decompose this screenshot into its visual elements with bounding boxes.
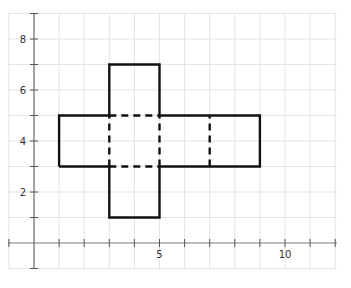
svg-text:8: 8	[20, 34, 26, 45]
svg-text:2: 2	[20, 187, 26, 198]
axis-labels: 5102468	[20, 34, 292, 260]
svg-text:10: 10	[279, 249, 292, 260]
coordinate-grid-diagram: 5102468	[0, 0, 351, 288]
grid-lines	[8, 14, 337, 269]
svg-text:6: 6	[20, 85, 26, 96]
svg-text:4: 4	[20, 136, 26, 147]
svg-text:5: 5	[156, 249, 162, 260]
